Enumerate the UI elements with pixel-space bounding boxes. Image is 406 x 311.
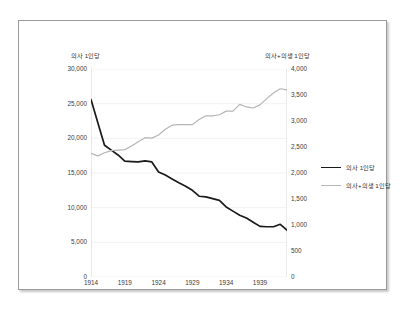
legend-item-0: 의사 1인당 (321, 163, 401, 172)
tick-label: 2,500 (291, 144, 307, 150)
tick-label: 1939 (253, 280, 267, 286)
series-line-0 (91, 100, 287, 231)
tick-label: 1,500 (291, 196, 307, 202)
left-axis-title: 의사 1인당 (71, 51, 100, 60)
tick-label: 5,000 (71, 239, 87, 245)
tick-label: 20,000 (67, 135, 87, 141)
tick-label: 500 (291, 248, 302, 254)
left-axis-tick-labels: 30,00025,00020,00015,00010,0005,0000 (45, 69, 87, 277)
series-line-1 (91, 89, 287, 156)
right-axis-title: 의사+의생 1인당 (265, 51, 310, 60)
chart-legend: 의사 1인당 의사+의생 1인당 (321, 163, 401, 199)
legend-item-1: 의사+의생 1인당 (321, 181, 401, 190)
legend-line-icon-0 (321, 167, 341, 168)
tick-label: 2,000 (291, 170, 307, 176)
legend-label-1: 의사+의생 1인당 (346, 181, 391, 190)
plot-area (91, 69, 287, 277)
tick-label: 10,000 (67, 204, 87, 210)
chart-figure: 의사 1인당 의사+의생 1인당 30,00025,00020,00015,00… (0, 0, 406, 311)
tick-label: 1924 (151, 280, 165, 286)
right-axis-tick-labels: 4,0003,5003,0002,5002,0001,5001,0005000 (291, 69, 325, 277)
tick-label: 0 (291, 274, 295, 280)
tick-label: 3,000 (291, 118, 307, 124)
tick-label: 4,000 (291, 66, 307, 72)
legend-label-0: 의사 1인당 (346, 163, 375, 172)
tick-label: 1929 (185, 280, 199, 286)
tick-label: 3,500 (291, 92, 307, 98)
tick-label: 1919 (118, 280, 132, 286)
tick-label: 1934 (219, 280, 233, 286)
tick-label: 30,000 (67, 66, 87, 72)
plot-svg (91, 69, 287, 277)
chart-frame: 의사 1인당 의사+의생 1인당 30,00025,00020,00015,00… (18, 20, 387, 290)
tick-label: 1914 (84, 280, 98, 286)
legend-line-icon-1 (321, 185, 341, 186)
x-axis-tick-labels: 191419191924192919341939 (91, 280, 287, 294)
tick-label: 1,000 (291, 222, 307, 228)
tick-label: 25,000 (67, 100, 87, 106)
tick-label: 15,000 (67, 170, 87, 176)
